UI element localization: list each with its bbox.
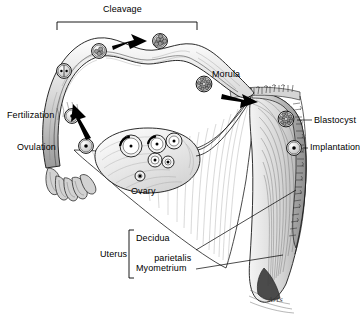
label-morula: Morula (212, 69, 240, 79)
stage-eight-cell-stage (153, 34, 168, 49)
maturing-follicle-b (162, 156, 174, 168)
stage-two-cell-stage (57, 64, 72, 79)
decidua-line-1: Decidua (136, 233, 170, 243)
stage-blastocyst-stage (278, 111, 294, 127)
decidua-line-2: parietalis (154, 253, 191, 263)
label-fertilization: Fertilization (7, 110, 54, 120)
label-cleavage: Cleavage (103, 4, 142, 14)
label-decidua-parietalis: Decidua parietalis (136, 233, 191, 263)
label-ovary: Ovary (131, 186, 156, 196)
label-myometrium: Myometrium (136, 263, 187, 273)
primary-follicle (135, 171, 145, 181)
secondary-follicle (148, 153, 162, 167)
label-implantation: Implantation (310, 142, 360, 152)
stage-implanting-blastocyst (287, 141, 302, 156)
fimbriae (46, 168, 96, 201)
tertiary-follicle (148, 135, 166, 153)
artist-signature: Arts (267, 296, 283, 304)
label-ovulation: Ovulation (17, 142, 56, 152)
uterus-bracket (129, 230, 134, 278)
stage-four-cell-stage (92, 44, 107, 59)
maturing-follicle-a (166, 133, 182, 149)
stage-ovulated-ovum (79, 139, 94, 154)
graafian-follicle (120, 135, 142, 157)
stage-morula-stage (196, 76, 212, 92)
label-uterus: Uterus (100, 249, 127, 259)
label-blastocyst: Blastocyst (314, 115, 356, 125)
cleavage-bracket (57, 22, 197, 30)
